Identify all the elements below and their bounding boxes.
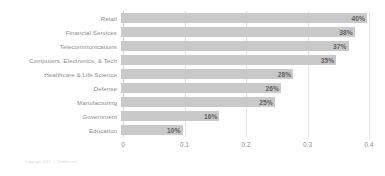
bar[interactable]: 35%: [121, 55, 336, 65]
bar-track: 38%: [121, 25, 385, 39]
bar-row: Financial Services38%: [0, 25, 385, 39]
bar-row: Telecommunications37%: [0, 39, 385, 53]
category-label: Defense: [0, 85, 121, 92]
plot-area: Retail40%Financial Services38%Telecommun…: [0, 11, 385, 141]
bar-value-label: 10%: [167, 127, 181, 134]
category-label: Retail: [0, 15, 121, 22]
bar-track: 37%: [121, 39, 385, 53]
bar-value-label: 35%: [321, 57, 335, 64]
bar[interactable]: 37%: [121, 41, 349, 51]
bar-value-label: 38%: [339, 29, 353, 36]
bar[interactable]: 25%: [121, 97, 275, 107]
bar-value-label: 25%: [259, 99, 273, 106]
x-tick-label: 0.2: [242, 141, 251, 149]
category-label: Telecommunications: [0, 43, 121, 50]
category-label: Computers, Electronics, & Tech: [0, 57, 121, 64]
bar[interactable]: 38%: [121, 27, 355, 37]
bar[interactable]: 10%: [121, 125, 183, 135]
x-tick-label: 0.3: [303, 141, 312, 149]
bar-track: 10%: [121, 123, 385, 137]
bar-track: 35%: [121, 53, 385, 67]
bar-row: Manufacturing25%: [0, 95, 385, 109]
bar-value-label: 16%: [204, 113, 218, 120]
bar-value-label: 28%: [278, 71, 292, 78]
bar-row: Computers, Electronics, & Tech35%: [0, 53, 385, 67]
bar[interactable]: 28%: [121, 69, 293, 79]
x-axis: 00.10.20.30.4: [123, 141, 385, 155]
bar-value-label: 26%: [265, 85, 279, 92]
bar-rows: Retail40%Financial Services38%Telecommun…: [0, 11, 385, 137]
bar-row: Healthcare & Life Science28%: [0, 67, 385, 81]
bar[interactable]: 26%: [121, 83, 281, 93]
footer-copyright: Copyright 2015 — Confidential: [25, 160, 77, 165]
bar[interactable]: 16%: [121, 111, 219, 121]
bar-track: 26%: [121, 81, 385, 95]
category-label: Government: [0, 113, 121, 120]
bar-track: 25%: [121, 95, 385, 109]
x-tick-label: 0: [121, 141, 125, 149]
bar-value-label: 37%: [333, 43, 347, 50]
bar-track: 28%: [121, 67, 385, 81]
category-label: Education: [0, 127, 121, 134]
bar-value-label: 40%: [352, 15, 366, 22]
bar-row: Retail40%: [0, 11, 385, 25]
bar-track: 16%: [121, 109, 385, 123]
bar[interactable]: 40%: [121, 13, 367, 23]
bar-track: 40%: [121, 11, 385, 25]
category-label: Manufacturing: [0, 99, 121, 106]
category-label: Healthcare & Life Science: [0, 71, 121, 78]
bar-row: Education10%: [0, 123, 385, 137]
category-label: Financial Services: [0, 29, 121, 36]
x-tick-label: 0.4: [365, 141, 374, 149]
x-tick-label: 0.1: [180, 141, 189, 149]
bar-row: Government16%: [0, 109, 385, 123]
bar-row: Defense26%: [0, 81, 385, 95]
bar-chart: Retail40%Financial Services38%Telecommun…: [0, 0, 385, 176]
